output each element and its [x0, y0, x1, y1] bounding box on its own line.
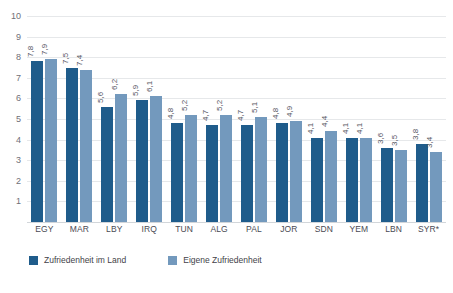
x-axis-labels: EGYMARLBYIRQTUNALGPALJORSDNYEMLBNSYR*: [27, 224, 446, 234]
bar-value-label: 7,8: [27, 46, 36, 57]
bar-value-label: 4,9: [285, 106, 294, 117]
y-axis-tick-label: 5: [1, 114, 21, 124]
x-axis-label: EGY: [27, 224, 62, 234]
bar-group: 4,85,2: [167, 16, 202, 222]
x-axis-label: IRQ: [132, 224, 167, 234]
bar-value-label: 4,1: [355, 122, 364, 133]
bar[interactable]: 5,2: [220, 115, 232, 222]
bar[interactable]: 4,4: [325, 131, 337, 222]
bar-chart: 10987654321 7,87,97,57,45,66,25,96,14,85…: [0, 0, 453, 293]
bar-group: 5,96,1: [132, 16, 167, 222]
y-axis-tick-label: 4: [1, 135, 21, 145]
bar-value-label: 6,1: [146, 81, 155, 92]
chart-legend: Zufriedenheit im LandEigene Zufriedenhei…: [29, 255, 304, 265]
y-axis-tick-label: 3: [1, 155, 21, 165]
bar-value-label: 7,4: [76, 54, 85, 65]
bar-value-label: 4,7: [202, 110, 211, 121]
bar[interactable]: 4,7: [241, 125, 253, 222]
x-axis-label: ALG: [202, 224, 237, 234]
legend-item[interactable]: Eigene Zufriedenheit: [168, 255, 261, 265]
bar[interactable]: 4,7: [206, 125, 218, 222]
y-axis-tick-label: 7: [1, 73, 21, 83]
bar[interactable]: 6,1: [150, 96, 162, 222]
y-axis-tick-label: 6: [1, 93, 21, 103]
bar-group: 4,14,1: [341, 16, 376, 222]
legend-color-swatch: [168, 256, 177, 265]
y-axis-tick-label: 2: [1, 176, 21, 186]
bar-group: 7,57,4: [62, 16, 97, 222]
bar[interactable]: 3,4: [430, 152, 442, 222]
legend-color-swatch: [29, 256, 38, 265]
bar-group: 4,75,2: [202, 16, 237, 222]
x-axis-label: LBN: [376, 224, 411, 234]
axis-baseline: [27, 222, 446, 223]
bar-group: 3,83,4: [411, 16, 446, 222]
bar[interactable]: 7,5: [66, 68, 78, 223]
bar-value-label: 3,4: [425, 137, 434, 148]
bar[interactable]: 7,8: [31, 61, 43, 222]
bar-value-label: 3,8: [411, 129, 420, 140]
bar[interactable]: 4,1: [360, 138, 372, 222]
bar-value-label: 4,8: [167, 108, 176, 119]
x-axis-label: SYR*: [411, 224, 446, 234]
legend-label: Zufriedenheit im Land: [44, 255, 126, 265]
bar[interactable]: 7,9: [45, 59, 57, 222]
bar-group: 4,75,1: [237, 16, 272, 222]
y-axis-tick-label: 1: [1, 196, 21, 206]
bar-value-label: 5,1: [250, 102, 259, 113]
bar[interactable]: 4,8: [171, 123, 183, 222]
bar-group: 4,14,4: [306, 16, 341, 222]
bar-value-label: 3,5: [390, 135, 399, 146]
bar-group: 7,87,9: [27, 16, 62, 222]
bar[interactable]: 5,9: [136, 100, 148, 222]
bar-value-label: 4,7: [236, 110, 245, 121]
bar[interactable]: 5,2: [185, 115, 197, 222]
bar[interactable]: 3,5: [395, 150, 407, 222]
bar[interactable]: 5,6: [101, 107, 113, 222]
bar[interactable]: 7,4: [80, 70, 92, 222]
x-axis-label: TUN: [167, 224, 202, 234]
bar[interactable]: 4,1: [311, 138, 323, 222]
bar-value-label: 3,6: [376, 133, 385, 144]
x-axis-label: JOR: [271, 224, 306, 234]
y-axis-tick-label: 8: [1, 52, 21, 62]
bar[interactable]: 3,8: [416, 144, 428, 222]
bar-group: 3,63,5: [376, 16, 411, 222]
x-axis-label: YEM: [341, 224, 376, 234]
bar[interactable]: 4,8: [276, 123, 288, 222]
x-axis-label: LBY: [97, 224, 132, 234]
bar-value-label: 4,8: [271, 108, 280, 119]
y-axis-tick-label: 9: [1, 32, 21, 42]
bar-groups: 7,87,97,57,45,66,25,96,14,85,24,75,24,75…: [27, 16, 446, 222]
bar-value-label: 5,2: [216, 100, 225, 111]
bar-value-label: 5,2: [181, 100, 190, 111]
bar[interactable]: 6,2: [115, 94, 127, 222]
bar-value-label: 4,1: [306, 122, 315, 133]
bar-value-label: 7,9: [41, 44, 50, 55]
bar-value-label: 7,5: [62, 52, 71, 63]
plot-area: 10987654321 7,87,97,57,45,66,25,96,14,85…: [27, 16, 446, 222]
y-axis-tick-label: 10: [1, 11, 21, 21]
x-axis-label: MAR: [62, 224, 97, 234]
bar[interactable]: 4,9: [290, 121, 302, 222]
bar-value-label: 5,6: [97, 92, 106, 103]
x-axis-label: PAL: [237, 224, 272, 234]
bar-value-label: 5,9: [132, 85, 141, 96]
legend-item[interactable]: Zufriedenheit im Land: [29, 255, 126, 265]
bar[interactable]: 4,1: [346, 138, 358, 222]
x-axis-label: SDN: [306, 224, 341, 234]
bar-value-label: 4,1: [341, 122, 350, 133]
bar-value-label: 4,4: [320, 116, 329, 127]
bar[interactable]: 5,1: [255, 117, 267, 222]
bar-value-label: 6,2: [111, 79, 120, 90]
bar-group: 4,84,9: [271, 16, 306, 222]
bar[interactable]: 3,6: [381, 148, 393, 222]
bar-group: 5,66,2: [97, 16, 132, 222]
legend-label: Eigene Zufriedenheit: [183, 255, 261, 265]
